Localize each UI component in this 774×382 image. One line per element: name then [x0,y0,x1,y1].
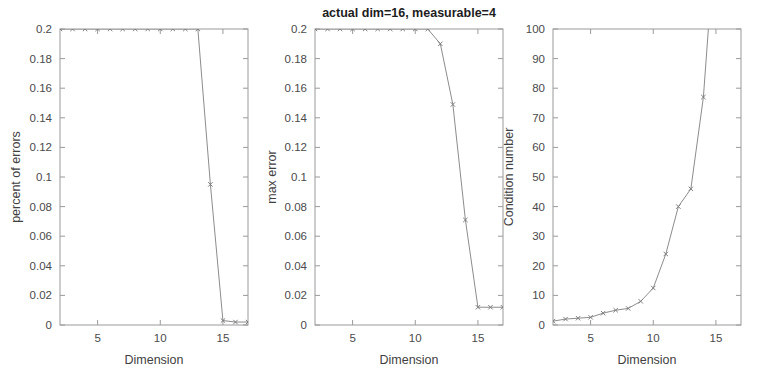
y-tick-label: 0 [301,319,307,331]
y-tick-label: 0.16 [285,82,307,94]
x-tick-label: 15 [472,332,485,344]
y-tick-label: 0.1 [36,171,52,183]
y-tick-label: 0 [539,319,545,331]
y-tick-label: 0.06 [285,230,307,242]
y-tick-label: 0 [46,319,52,331]
y-tick-label: 0.04 [285,260,308,272]
y-tick-label: 0.08 [285,201,307,213]
x-tick-label: 5 [94,332,100,344]
y-tick-label: 0.06 [30,230,52,242]
subplot-condition-number: 010203040506070809010051015DimensionCond… [502,0,741,367]
y-tick-label: 0.2 [291,23,307,35]
y-tick-label: 0.18 [30,53,52,65]
axes-frame [315,29,503,325]
y-tick-label: 0.12 [30,141,52,153]
y-tick-label: 0.12 [285,141,307,153]
x-tick-label: 10 [647,332,660,344]
y-tick-label: 0.16 [30,82,52,94]
y-tick-label: 10 [532,289,545,301]
y-tick-label: 0.08 [30,201,52,213]
y-tick-label: 90 [532,53,545,65]
axes-frame [60,29,248,325]
y-tick-label: 0.1 [291,171,307,183]
y-tick-label: 20 [532,260,545,272]
y-tick-label: 50 [532,171,545,183]
y-tick-label: 0.18 [285,53,307,65]
x-tick-label: 15 [217,332,230,344]
three-subplot-figure: 00.020.040.060.080.10.120.140.160.180.25… [0,0,774,382]
y-tick-label: 0.02 [285,289,307,301]
y-tick-label: 40 [532,201,545,213]
y-axis-label: max error [265,150,279,203]
y-tick-label: 30 [532,230,545,242]
x-axis-label: Dimension [617,353,676,367]
x-tick-label: 5 [587,332,593,344]
y-tick-label: 0.14 [285,112,308,124]
y-tick-label: 70 [532,112,545,124]
y-tick-label: 0.02 [30,289,52,301]
y-tick-label: 0.2 [36,23,52,35]
y-tick-label: 60 [532,141,545,153]
x-tick-label: 15 [710,332,723,344]
subplot-max-error: 00.020.040.060.080.10.120.140.160.180.25… [265,6,505,367]
x-axis-label: Dimension [124,353,183,367]
y-axis-label: percent of errors [9,131,23,223]
y-tick-label: 80 [532,82,545,94]
subplot-percent-of-errors: 00.020.040.060.080.10.120.140.160.180.25… [9,23,250,367]
plot-title: actual dim=16, measurable=4 [322,6,496,20]
x-tick-label: 10 [409,332,422,344]
figure-canvas: 00.020.040.060.080.10.120.140.160.180.25… [0,0,774,382]
axes-frame [553,29,741,325]
x-tick-label: 5 [349,332,355,344]
y-axis-label: Condition number [502,128,516,227]
y-tick-label: 0.14 [30,112,53,124]
x-axis-label: Dimension [379,353,438,367]
x-tick-label: 10 [154,332,167,344]
y-tick-label: 0.04 [30,260,53,272]
y-tick-label: 100 [526,23,545,35]
